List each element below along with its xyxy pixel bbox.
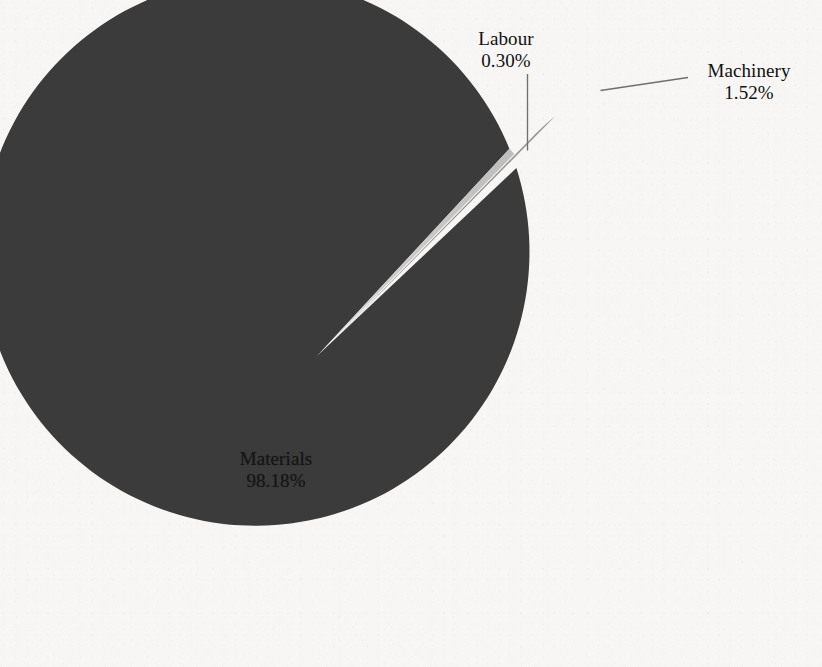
slice-label-materials-name: Materials xyxy=(186,448,366,470)
slice-label-labour-value: 0.30% xyxy=(440,50,572,72)
slice-label-labour: Labour 0.30% xyxy=(440,28,572,73)
slice-label-labour-name: Labour xyxy=(440,28,572,50)
slice-label-materials: Materials 98.18% xyxy=(186,448,366,493)
pie-slice-materials[interactable] xyxy=(0,0,529,526)
slice-label-materials-value: 98.18% xyxy=(186,470,366,492)
slice-label-machinery-value: 1.52% xyxy=(676,82,822,104)
leader-line-machinery xyxy=(601,78,689,91)
slice-label-machinery: Machinery 1.52% xyxy=(676,60,822,105)
slice-label-machinery-name: Machinery xyxy=(676,60,822,82)
pie-chart-figure: Labour 0.30% Machinery 1.52% Materials 9… xyxy=(0,0,822,667)
